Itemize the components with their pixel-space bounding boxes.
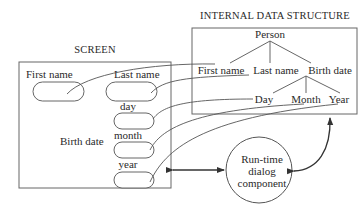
node-day: Day: [255, 93, 274, 105]
internal-title: INTERNAL DATA STRUCTURE: [200, 10, 350, 21]
link-month: [150, 104, 304, 150]
node-year: Year: [329, 93, 350, 105]
link-last-name: [151, 75, 249, 93]
node-month: Month: [291, 93, 321, 105]
screen-title: SCREEN: [74, 44, 116, 55]
link-day: [153, 99, 253, 119]
birth-date-group-label: Birth date: [60, 135, 104, 147]
node-last-name: Last name: [253, 64, 299, 76]
dialog-line-3: component: [238, 177, 287, 189]
first-name-field[interactable]: [33, 82, 84, 101]
last-name-field[interactable]: [106, 82, 157, 101]
dialog-line-2: dialog: [248, 165, 276, 177]
node-person: Person: [255, 28, 285, 40]
field-label-month: month: [114, 129, 143, 141]
field-label-first-name: First name: [26, 68, 73, 80]
day-field[interactable]: [114, 113, 154, 129]
year-field[interactable]: [114, 172, 154, 188]
month-field[interactable]: [114, 142, 154, 158]
arrow-dialog-internal: [294, 118, 330, 171]
diagram-canvas: SCREEN First name Last name day Birth da…: [0, 0, 364, 205]
field-label-year: year: [119, 158, 138, 170]
field-label-day: day: [120, 100, 136, 112]
dialog-line-1: Run-time: [241, 153, 283, 165]
node-first-name: First name: [198, 64, 245, 76]
node-birth-date: Birth date: [308, 64, 352, 76]
field-label-last-name: Last name: [114, 68, 160, 80]
